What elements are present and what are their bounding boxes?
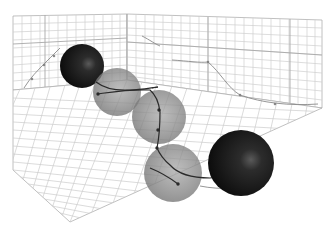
sphere-end: [208, 130, 274, 196]
3d-scene: [0, 0, 331, 234]
scene-canvas: [0, 0, 331, 234]
sphere-mid-3: [144, 144, 202, 202]
